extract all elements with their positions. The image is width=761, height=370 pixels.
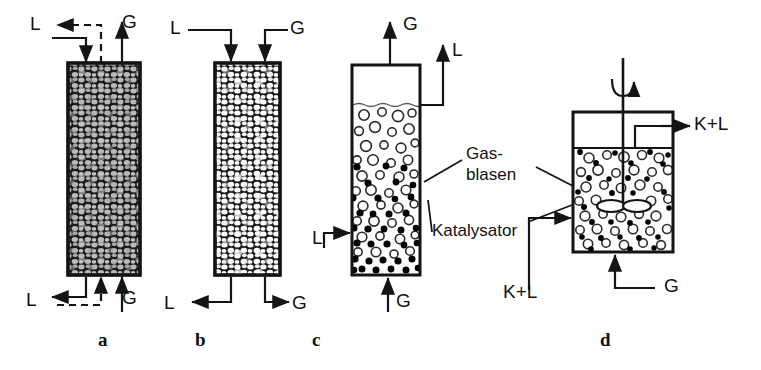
panel-a-label-liquid-bottom: L [26,290,37,310]
leader-katalysator-to-d [528,205,572,222]
gas-bubbles-label-line2: blasen [466,166,516,184]
panel-letter-b: b [195,330,206,350]
panel-b-label-liquid-top: L [170,18,181,38]
panel-b-gas-in-line [265,30,288,61]
panel-d-label-gas-in: G [664,276,679,296]
panel-b-label-gas-bottom: G [292,293,307,313]
panel-b-gas-out-line [265,277,289,302]
panel-d-label-product-out: K+L [694,114,728,134]
panel-c-liquid-in-line [324,233,350,248]
leader-gasblasen-to-d [536,167,573,186]
panel-b [188,30,289,302]
panel-c [324,22,443,312]
panel-a-liquid-in-top [52,38,86,62]
panel-letter-c: c [312,330,320,350]
panel-a-liquid-dashed-bottom [57,277,101,305]
panel-d [529,58,690,290]
panel-a-label-gas-bottom: G [122,288,137,308]
panel-d-impeller-blade-right [623,200,651,212]
panel-c-label-liquid-side: L [312,228,323,248]
panel-d-label-feed-in: K+L [503,282,537,302]
panel-b-label-gas-top: G [290,18,305,38]
gas-bubbles-label-line1: Gas- [466,145,503,163]
panel-c-label-gas-bottom: G [396,291,411,311]
panel-d-gas-in-line [615,255,655,288]
diagram-vector-layer [0,0,761,370]
panel-a [52,22,140,312]
panel-c-liquid-out-line [420,45,443,105]
catalyst-label: Katalysator [432,222,517,240]
panel-b-label-liquid-bottom: L [164,293,175,313]
panel-c-label-gas-top: G [403,14,418,34]
panel-b-liquid-out-line [192,277,231,302]
panel-d-feed-in-line [529,218,571,290]
panel-letter-d: d [600,330,611,350]
panel-a-label-liquid-top: L [30,14,41,34]
figure-canvas: L G L G L G L G G L L G K+L K+L G Gas- b… [0,0,761,370]
panel-a-liquid-dashed-top [57,25,101,63]
panel-a-liquid-out-bottom [52,277,86,297]
panel-b-liquid-in-line [188,30,231,61]
panel-a-label-gas-top: G [122,12,137,32]
panel-c-label-liquid-top: L [452,40,463,60]
leader-gasblasen-to-c [424,160,462,182]
panel-letter-a: a [98,330,108,350]
panel-d-impeller-blade-left [597,200,625,212]
